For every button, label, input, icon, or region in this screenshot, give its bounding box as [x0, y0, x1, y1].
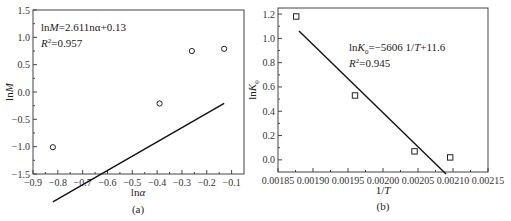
chart-b-panel-label: (b) [377, 200, 390, 213]
data-point [222, 46, 227, 51]
chart-a-ylabel: lnM [3, 82, 15, 101]
y-tick-label: −1.0 [12, 141, 30, 152]
data-point [189, 48, 194, 53]
x-tick-label: −0.2 [198, 177, 216, 188]
x-tick-label: 0.00210 [437, 175, 470, 186]
x-tick-label: 0.00205 [402, 175, 435, 186]
y-tick-label: 1.0 [18, 32, 31, 43]
figure: −1.5−1.0−0.50.00.51.01.5 −0.9−0.8−0.7−0.… [0, 0, 511, 221]
chart-b: 0.00.20.40.60.81.01.2 0.001850.001900.00… [246, 8, 504, 213]
y-tick-label: 0.4 [263, 106, 276, 117]
x-tick-label: −0.4 [148, 177, 166, 188]
data-point [448, 155, 453, 160]
x-tick-label: 0.00190 [297, 175, 330, 186]
chart-a-r2: R2=0.957 [40, 37, 83, 49]
x-tick-label: −0.3 [173, 177, 191, 188]
y-tick-label: 0.0 [18, 87, 31, 98]
chart-a-equation: lnM=2.611nα+0.13 [41, 21, 126, 33]
chart-b-equation: lnK0=−5606 1/T+11.6 [349, 41, 446, 56]
data-point [352, 93, 357, 98]
chart-b-xlabel: 1/T [376, 184, 392, 196]
data-point [157, 101, 162, 106]
chart-b-r2: R2=0.945 [348, 57, 391, 69]
chart-b-frame [278, 8, 488, 172]
x-tick-label: 0.00195 [332, 175, 365, 186]
chart-b-ylabel: lnK0 [246, 80, 261, 100]
y-tick-label: 1.5 [18, 5, 31, 16]
x-tick-label: 0.00215 [472, 175, 505, 186]
y-tick-label: 1.2 [263, 9, 276, 20]
x-tick-label: −0.9 [24, 177, 42, 188]
y-tick-label: 0.8 [263, 57, 276, 68]
y-tick-label: −0.5 [12, 114, 30, 125]
y-tick-label: 0.5 [18, 59, 31, 70]
y-tick-label: 0.0 [263, 154, 276, 165]
chart-a-points [50, 46, 226, 150]
data-point [294, 14, 299, 19]
chart-b-y-axis: 0.00.20.40.60.81.01.2 [263, 9, 283, 166]
chart-b-points [294, 14, 453, 160]
x-tick-label: −0.8 [49, 177, 67, 188]
y-tick-label: 1.0 [263, 33, 276, 44]
chart-a: −1.5−1.0−0.50.00.51.01.5 −0.9−0.8−0.7−0.… [3, 5, 244, 217]
data-point [50, 145, 55, 150]
chart-a-frame [33, 10, 244, 174]
x-tick-label: −0.6 [98, 177, 116, 188]
x-tick-label: 0.00185 [262, 175, 295, 186]
x-tick-label: −0.7 [74, 177, 92, 188]
y-tick-label: 0.6 [263, 81, 276, 92]
chart-a-panel-label: (a) [132, 203, 145, 216]
x-tick-label: −0.1 [223, 177, 241, 188]
data-point [412, 149, 417, 154]
chart-a-xlabel: lnα [131, 186, 146, 198]
y-tick-label: 0.2 [263, 130, 276, 141]
